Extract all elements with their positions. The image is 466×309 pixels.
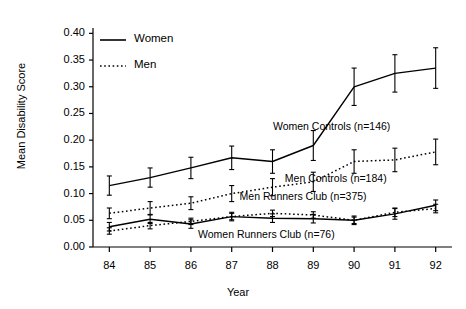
legend-label-women: Women bbox=[134, 32, 173, 44]
annotation-1: Men Controls (n=184) bbox=[285, 172, 387, 184]
y-tick-label-0.00: 0.00 bbox=[45, 240, 85, 252]
y-tick-label-0.40: 0.40 bbox=[45, 26, 85, 38]
annotation-0: Women Controls (n=146) bbox=[273, 120, 390, 132]
y-tick-label-0.05: 0.05 bbox=[45, 213, 85, 225]
y-tick-label-0.30: 0.30 bbox=[45, 80, 85, 92]
y-axis-label: Mean Disability Score bbox=[15, 41, 27, 191]
y-tick-label-0.35: 0.35 bbox=[45, 53, 85, 65]
annotation-3: Women Runners Club (n=76) bbox=[198, 228, 335, 240]
x-tick-label-90: 90 bbox=[339, 259, 369, 271]
x-tick-label-91: 91 bbox=[380, 259, 410, 271]
x-tick-label-89: 89 bbox=[298, 259, 328, 271]
y-tick-label-0.10: 0.10 bbox=[45, 187, 85, 199]
legend-label-men: Men bbox=[134, 58, 156, 70]
x-tick-label-88: 88 bbox=[258, 259, 288, 271]
y-tick-label-0.25: 0.25 bbox=[45, 106, 85, 118]
x-tick-label-92: 92 bbox=[421, 259, 451, 271]
x-tick-label-84: 84 bbox=[94, 259, 124, 271]
error-bar bbox=[107, 208, 112, 219]
y-tick-label-0.20: 0.20 bbox=[45, 133, 85, 145]
error-bar bbox=[352, 150, 357, 174]
y-tick-label-0.15: 0.15 bbox=[45, 160, 85, 172]
x-tick-label-87: 87 bbox=[217, 259, 247, 271]
annotation-2: Men Runners Club (n=375) bbox=[240, 190, 367, 202]
x-axis-label: Year bbox=[208, 286, 268, 298]
x-tick-label-85: 85 bbox=[135, 259, 165, 271]
chart-figure: Mean Disability Score Year 0.000.050.100… bbox=[0, 0, 466, 309]
x-tick-label-86: 86 bbox=[176, 259, 206, 271]
